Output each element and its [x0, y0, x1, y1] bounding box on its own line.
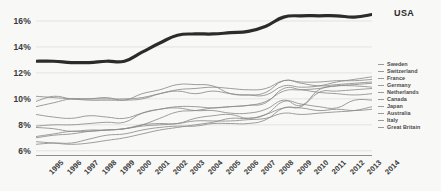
- legend: SwedenSwitzerlandFranceGermanyNetherland…: [378, 61, 441, 131]
- legend-item[interactable]: Italy: [378, 117, 441, 124]
- series-line: [36, 83, 372, 126]
- legend-item-label: France: [387, 75, 405, 82]
- legend-item-label: Netherlands: [387, 89, 419, 96]
- x-axis-tick-label: 2003: [188, 158, 206, 176]
- legend-item-label: Switzerland: [387, 68, 418, 75]
- legend-item[interactable]: Canada: [378, 96, 441, 103]
- x-axis-tick-label: 2013: [365, 158, 383, 176]
- series-line-highlight: [36, 14, 372, 62]
- x-axis-tick-label: 2012: [348, 158, 366, 176]
- legend-swatch-icon: [378, 99, 384, 100]
- legend-swatch-icon: [378, 85, 384, 86]
- x-axis-tick-label: 1995: [47, 158, 65, 176]
- x-axis-tick-label: 2011: [330, 158, 348, 176]
- legend-item[interactable]: Switzerland: [378, 68, 441, 75]
- line-chart: 6%8%10%12%14%16% 19951996199719981999200…: [0, 0, 441, 191]
- legend-item[interactable]: Netherlands: [378, 89, 441, 96]
- legend-item-label: Canada: [387, 96, 407, 103]
- plot-area: [36, 8, 372, 156]
- x-axis-tick-label: 2008: [277, 158, 295, 176]
- legend-item[interactable]: Australia: [378, 110, 441, 117]
- x-axis-tick-label: 1999: [118, 158, 136, 176]
- legend-swatch-icon: [378, 78, 384, 79]
- x-axis-tick-label: 2002: [171, 158, 189, 176]
- legend-item-label: Sweden: [387, 61, 408, 68]
- x-axis-tick-label: 2014: [383, 158, 401, 176]
- y-axis-tick-label: 14%: [13, 42, 31, 52]
- y-axis-tick-label: 16%: [13, 16, 31, 26]
- plot-svg: [36, 8, 372, 156]
- legend-swatch-icon: [378, 92, 384, 93]
- series-line: [36, 107, 372, 138]
- y-axis-tick-label: 6%: [18, 146, 31, 156]
- legend-item[interactable]: Japan: [378, 103, 441, 110]
- legend-item[interactable]: Sweden: [378, 61, 441, 68]
- legend-swatch-icon: [378, 127, 384, 128]
- legend-item[interactable]: France: [378, 75, 441, 82]
- legend-item-label: Japan: [387, 103, 403, 110]
- series-line: [36, 107, 372, 136]
- series-line: [36, 99, 372, 144]
- legend-item-label: Germany: [387, 82, 411, 89]
- x-axis-tick-label: 2000: [135, 158, 153, 176]
- legend-swatch-icon: [378, 106, 384, 107]
- legend-swatch-icon: [378, 71, 384, 72]
- x-axis-tick-label: 2009: [295, 158, 313, 176]
- legend-item-label: Great Britain: [387, 124, 420, 131]
- series-line: [36, 79, 372, 100]
- legend-item[interactable]: Great Britain: [378, 124, 441, 131]
- legend-item-label: Australia: [387, 110, 411, 117]
- x-axis-tick-label: 2010: [312, 158, 330, 176]
- y-axis-tick-label: 8%: [18, 120, 31, 130]
- x-axis-tick-label: 2004: [206, 158, 224, 176]
- x-axis-tick-label: 2007: [259, 158, 277, 176]
- x-axis-tick-label: 1997: [82, 158, 100, 176]
- legend-swatch-icon: [378, 113, 384, 114]
- y-axis-tick-label: 10%: [13, 94, 31, 104]
- legend-item-label: Italy: [387, 117, 398, 124]
- x-axis-tick-label: 1998: [100, 158, 118, 176]
- x-axis-tick-label: 2005: [224, 158, 242, 176]
- y-axis: 6%8%10%12%14%16%: [0, 8, 31, 156]
- x-axis-tick-label: 2006: [242, 158, 260, 176]
- x-axis-tick-label: 2001: [153, 158, 171, 176]
- y-axis-tick-label: 12%: [13, 68, 31, 78]
- legend-swatch-icon: [378, 64, 384, 65]
- usa-series-callout: USA: [394, 8, 414, 18]
- x-axis: 1995199619971998199920002001200220032004…: [36, 158, 372, 191]
- x-axis-tick-label: 1996: [65, 158, 83, 176]
- legend-item[interactable]: Germany: [378, 82, 441, 89]
- legend-swatch-icon: [378, 120, 384, 121]
- series-line: [36, 80, 372, 101]
